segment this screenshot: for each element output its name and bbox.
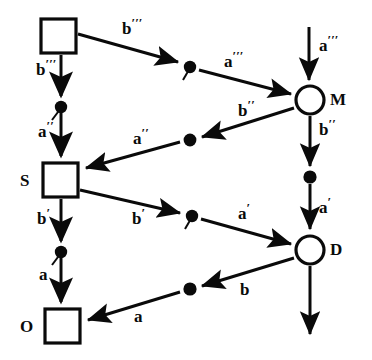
- edge-label-b0-diagonal: b: [240, 281, 249, 298]
- node-label-s: S: [20, 172, 29, 189]
- node-dot-mid-b: [183, 282, 196, 295]
- node-dot-right-upper: [303, 170, 316, 183]
- node-circle-m: [296, 86, 324, 114]
- edge-a1-diagonal: [201, 219, 291, 244]
- edge-label-a0-down: a: [39, 266, 48, 283]
- edge-label-b1-diagonal: b′: [132, 206, 145, 227]
- edge-label-b2-down: b′′: [319, 117, 336, 138]
- edge-a3-diagonal: [199, 70, 291, 94]
- edge-label-a3-down: a′′′: [319, 33, 338, 54]
- node-dot-mid-b2: [184, 134, 197, 147]
- node-dot-mid-lower: [185, 210, 198, 229]
- node-label-d: D: [330, 241, 342, 258]
- node-label-m: M: [330, 91, 346, 108]
- node-square-o: [45, 309, 80, 343]
- node-square-s: [43, 163, 78, 197]
- edge-label-a1-diagonal: a′: [238, 201, 250, 222]
- edge-b1-diagonal: [80, 190, 180, 213]
- node-circle-d: [296, 236, 324, 264]
- edge-label-b3-down: b′′′: [36, 57, 56, 78]
- edge-label-a3-diagonal: a′′′: [224, 49, 243, 70]
- node-dot-mid-upper: [183, 61, 196, 80]
- edge-label-b3-diagonal: b′′′: [122, 16, 142, 37]
- edge-b3-diagonal: [78, 34, 178, 62]
- node-square-top: [41, 19, 76, 53]
- edge-label-a1-down: a′: [319, 195, 331, 216]
- diagram-canvas: [0, 0, 372, 360]
- edge-label-a2-diagonal: a′′: [133, 126, 149, 147]
- edge-label-a2-down: a′′: [38, 119, 54, 140]
- node-label-o: O: [20, 318, 33, 335]
- edge-label-b2-diagonal: b′′: [238, 98, 255, 119]
- edge-label-b1-down: b′: [37, 206, 50, 227]
- commutative-diagram: S O M D b′′′ b′′′ a′′′ a′′′ a′′ b′′ a′′ …: [0, 0, 372, 360]
- edge-label-a0-diagonal: a: [134, 308, 143, 325]
